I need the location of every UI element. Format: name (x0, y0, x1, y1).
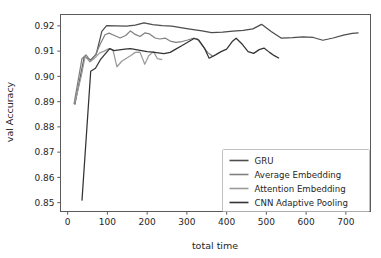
x-axis-label: total time (192, 240, 238, 251)
x-tick-label: 600 (298, 217, 315, 227)
legend-label-1[interactable]: Average Embedding (255, 170, 342, 180)
legend-label-0[interactable]: GRU (255, 156, 274, 166)
y-axis-label: val Accuracy (4, 81, 15, 142)
series-line-0 (75, 23, 359, 105)
y-tick-label: 0.88 (34, 122, 54, 132)
legend-label-3[interactable]: CNN Adaptive Pooling (255, 198, 348, 208)
x-tick-label: 100 (99, 217, 116, 227)
x-tick-label: 700 (337, 217, 354, 227)
x-tick-label: 200 (139, 217, 156, 227)
y-tick-label: 0.86 (34, 173, 54, 183)
x-tick-label: 0 (65, 217, 71, 227)
chart-figure: 0100200300400500600700 0.850.860.870.880… (0, 0, 381, 258)
y-tick-label: 0.90 (34, 72, 54, 82)
y-tick-label: 0.89 (34, 97, 54, 107)
y-tick-label: 0.87 (34, 147, 54, 157)
y-axis-ticks: 0.850.860.870.880.890.900.910.92 (34, 21, 60, 208)
x-tick-label: 300 (178, 217, 195, 227)
y-tick-label: 0.91 (34, 46, 54, 56)
legend-label-2[interactable]: Attention Embedding (255, 184, 346, 194)
line-chart: 0100200300400500600700 0.850.860.870.880… (0, 0, 381, 258)
y-tick-label: 0.85 (34, 198, 54, 208)
y-tick-label: 0.92 (34, 21, 54, 31)
series-line-1 (74, 31, 213, 104)
chart-legend[interactable]: GRUAverage EmbeddingAttention EmbeddingC… (223, 150, 370, 212)
x-axis-ticks: 0100200300400500600700 (65, 212, 355, 228)
x-tick-label: 500 (258, 217, 275, 227)
x-tick-label: 400 (218, 217, 235, 227)
